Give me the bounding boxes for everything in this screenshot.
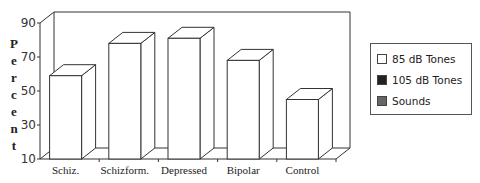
y-axis-label-letter: c	[11, 87, 17, 102]
legend-swatch-white	[377, 54, 387, 64]
y-axis-label-letter: t	[12, 138, 17, 153]
y-tick-label: 70	[21, 50, 36, 64]
bar-front	[109, 43, 141, 159]
legend-item-sounds: Sounds	[377, 94, 431, 108]
legend-label: 85 dB Tones	[392, 53, 456, 65]
legend-swatch-black	[377, 75, 387, 85]
y-tick-label: 90	[21, 16, 36, 30]
bar-front	[227, 60, 259, 159]
y-axis-label-letter: n	[10, 121, 18, 136]
x-category-label: Schizform.	[101, 164, 150, 176]
y-tick-label: 10	[21, 152, 36, 166]
y-axis-label-letter: r	[11, 70, 17, 85]
bar-chart: 1030507090PercentSchiz.Schizform.Depress…	[0, 0, 360, 183]
chart-legend: 85 dB Tones 105 dB Tones Sounds	[370, 43, 472, 115]
legend-label: 105 dB Tones	[392, 74, 462, 86]
y-tick-label: 50	[21, 84, 36, 98]
x-category-label: Schiz.	[52, 164, 79, 176]
bar-side	[318, 89, 332, 160]
bar-side	[141, 32, 155, 159]
bar-side	[259, 49, 273, 159]
bar-side	[82, 65, 96, 159]
legend-item-105db: 105 dB Tones	[377, 73, 462, 87]
y-axis-label-letter: e	[11, 53, 17, 68]
x-category-label: Control	[286, 164, 320, 176]
y-axis-label-letter: P	[10, 36, 18, 51]
y-tick-label: 30	[21, 118, 36, 132]
bar-front	[50, 76, 82, 159]
y-axis-label-letter: e	[11, 104, 17, 119]
x-category-label: Bipolar	[227, 164, 260, 176]
legend-label: Sounds	[392, 95, 431, 107]
bar-side	[200, 27, 214, 159]
bar-front	[168, 38, 200, 159]
legend-swatch-gray	[377, 96, 387, 106]
legend-item-85db: 85 dB Tones	[377, 52, 456, 66]
bar-front	[286, 100, 318, 160]
left-wall-edge	[40, 12, 54, 23]
x-category-label: Depressed	[161, 164, 207, 176]
